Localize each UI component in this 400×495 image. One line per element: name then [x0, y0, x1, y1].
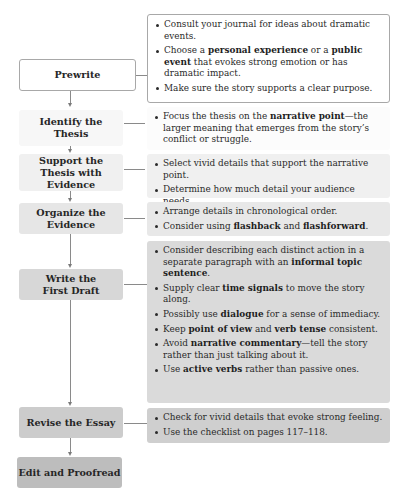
- details-identify-thesis: Focus the thesis on the narrative point—…: [147, 107, 390, 150]
- connector-line: [124, 284, 147, 285]
- arrow-down-icon: [68, 402, 72, 406]
- details-write-first-draft: Consider describing each distinct action…: [147, 241, 390, 403]
- detail-item: Focus the thesis on the narrative point—…: [155, 111, 384, 146]
- arrow-down-icon: [68, 264, 72, 268]
- step-edit-proofread: Edit and Proofread: [17, 457, 122, 488]
- detail-item: Use the checklist on pages 117–118.: [155, 427, 384, 439]
- step-label: Organize the Evidence: [31, 207, 111, 231]
- key-term: verb tense: [275, 324, 327, 334]
- arrow-down-icon: [68, 149, 72, 153]
- detail-text: and: [252, 324, 274, 334]
- detail-item: Possibly use dialogue for a sense of imm…: [155, 309, 384, 321]
- detail-text: .: [365, 221, 368, 231]
- connector-line: [136, 75, 147, 76]
- connector-line: [124, 423, 147, 424]
- detail-item: Make sure the story supports a clear pur…: [156, 83, 383, 95]
- key-term: time signals: [222, 283, 283, 293]
- key-term: active verbs: [183, 364, 242, 374]
- detail-item: Check for vivid details that evoke stron…: [155, 412, 384, 424]
- step-label: Write the First Draft: [36, 273, 106, 297]
- detail-item: Consider using flashback and flashforwar…: [155, 221, 384, 233]
- detail-text: Make sure the story supports a clear pur…: [164, 83, 372, 93]
- detail-list: Focus the thesis on the narrative point—…: [155, 111, 384, 146]
- detail-list: Check for vivid details that evoke stron…: [155, 412, 384, 438]
- detail-item: Arrange details in chronological order.: [155, 206, 384, 218]
- detail-item: Use active verbs rather than passive one…: [155, 364, 384, 376]
- detail-item: Consider describing each distinct action…: [155, 245, 384, 280]
- step-write-first-draft: Write the First Draft: [19, 269, 123, 300]
- details-support-thesis: Select vivid details that support the na…: [147, 154, 390, 198]
- key-term: flashback: [234, 221, 281, 231]
- detail-item: Supply clear time signals to move the st…: [155, 283, 384, 306]
- detail-text: Consider using: [163, 221, 234, 231]
- step-label: Revise the Essay: [27, 417, 116, 429]
- key-term: dialogue: [221, 309, 264, 319]
- step-label: Support the Thesis with Evidence: [23, 155, 119, 191]
- detail-item: Avoid narrative commentary—tell the stor…: [155, 338, 384, 361]
- step-revise-essay: Revise the Essay: [19, 407, 123, 438]
- detail-text: Avoid: [163, 338, 191, 348]
- arrow-down-icon: [68, 198, 72, 202]
- detail-item: Keep point of view and verb tense consis…: [155, 324, 384, 336]
- key-term: narrative point: [270, 111, 345, 121]
- arrow-down-icon: [68, 103, 72, 107]
- detail-text: Arrange details in chronological order.: [163, 206, 337, 216]
- detail-list: Consult your journal for ideas about dra…: [156, 19, 383, 95]
- detail-text: Check for vivid details that evoke stron…: [163, 412, 382, 422]
- detail-item: Consult your journal for ideas about dra…: [156, 19, 383, 42]
- detail-text: Focus the thesis on the: [163, 111, 270, 121]
- key-term: personal experience: [208, 45, 308, 55]
- detail-text: or a: [308, 45, 331, 55]
- detail-text: Possibly use: [163, 309, 221, 319]
- detail-text: Choose a: [164, 45, 208, 55]
- details-organize-evidence: Arrange details in chronological order.C…: [147, 202, 390, 236]
- key-term: flashforward: [303, 221, 365, 231]
- detail-list: Arrange details in chronological order.C…: [155, 206, 384, 232]
- detail-text: Consult your journal for ideas about dra…: [164, 19, 370, 41]
- step-label: Edit and Proofread: [19, 467, 121, 479]
- detail-text: .: [207, 268, 210, 278]
- step-label: Identify the Thesis: [31, 116, 111, 140]
- detail-text: consistent.: [326, 324, 378, 334]
- connector-line: [124, 123, 145, 124]
- step-organize-evidence: Organize the Evidence: [19, 203, 123, 234]
- connector-line: [70, 438, 71, 453]
- detail-text: Use the checklist on pages 117–118.: [163, 427, 328, 437]
- detail-text: Supply clear: [163, 283, 222, 293]
- connector-line: [124, 218, 145, 219]
- connector-line: [70, 300, 71, 403]
- detail-text: that evokes strong emotion or has dramat…: [164, 57, 348, 79]
- detail-list: Consider describing each distinct action…: [155, 245, 384, 376]
- arrow-down-icon: [68, 452, 72, 456]
- key-term: point of view: [188, 324, 252, 334]
- detail-text: and: [281, 221, 303, 231]
- step-support-thesis: Support the Thesis with Evidence: [19, 154, 123, 191]
- details-revise-essay: Check for vivid details that evoke stron…: [147, 408, 390, 443]
- connector-line: [124, 169, 145, 170]
- detail-text: Use: [163, 364, 183, 374]
- step-identify-thesis: Identify the Thesis: [19, 110, 123, 146]
- step-prewrite: Prewrite: [19, 59, 136, 91]
- details-prewrite: Consult your journal for ideas about dra…: [147, 14, 390, 103]
- detail-item: Choose a personal experience or a public…: [156, 45, 383, 80]
- detail-text: for a sense of immediacy.: [264, 309, 381, 319]
- connector-line: [70, 234, 71, 265]
- detail-item: Select vivid details that support the na…: [155, 158, 384, 181]
- step-label: Prewrite: [55, 69, 101, 81]
- detail-text: Select vivid details that support the na…: [163, 158, 368, 180]
- detail-text: rather than passive ones.: [242, 364, 359, 374]
- detail-text: Keep: [163, 324, 188, 334]
- key-term: narrative commentary: [191, 338, 302, 348]
